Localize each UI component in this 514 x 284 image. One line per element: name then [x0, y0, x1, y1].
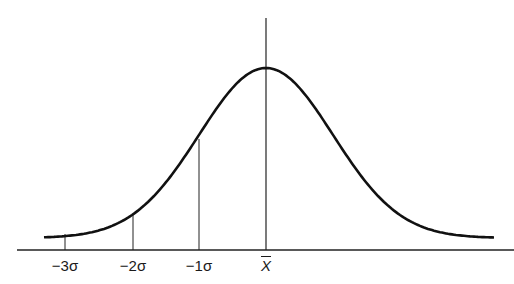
- label-minus-3-sigma: −3σ: [52, 257, 78, 274]
- bell-curve: [44, 68, 494, 238]
- label-minus-2-sigma: −2σ: [120, 257, 146, 274]
- normal-curve-diagram: [0, 0, 514, 284]
- label-mean: X: [261, 257, 271, 274]
- label-minus-1-sigma: −1σ: [186, 257, 212, 274]
